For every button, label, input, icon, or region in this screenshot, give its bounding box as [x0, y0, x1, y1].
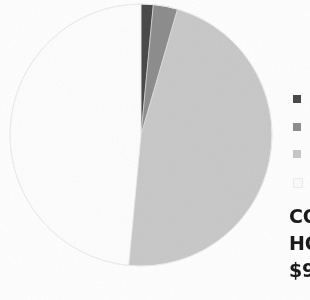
legend-swatch-icon [293, 178, 303, 188]
pie-chart [9, 3, 273, 267]
legend-swatch-icon [293, 150, 301, 158]
legend-swatch-icon [293, 95, 301, 103]
caption-line-3: $9 [289, 257, 310, 284]
legend-item[interactable] [289, 173, 310, 201]
legend-item[interactable] [289, 90, 310, 118]
chart-legend [289, 90, 310, 200]
legend-item[interactable] [289, 145, 310, 173]
legend-swatch-icon [293, 123, 301, 131]
pie-chart-screenshot: CO HO $9 [0, 0, 310, 300]
pie-slice-group [10, 4, 272, 266]
caption-block: CO HO $9 [289, 203, 310, 284]
pie-chart-svg [9, 3, 273, 267]
pie-slice[interactable] [10, 4, 141, 265]
caption-line-2: HO [289, 230, 310, 257]
caption-line-1: CO [289, 203, 310, 230]
legend-item[interactable] [289, 118, 310, 146]
